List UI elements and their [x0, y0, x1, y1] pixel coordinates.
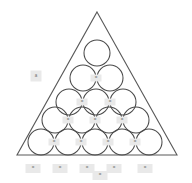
- baseline-label: =: [26, 164, 41, 173]
- tangency-marker: =: [103, 139, 114, 146]
- baseline-label: =: [138, 164, 153, 173]
- baseline-label: =: [107, 164, 122, 173]
- tangency-marker: =: [105, 99, 116, 106]
- baseline-label: =: [53, 164, 68, 173]
- tangency-marker: =: [90, 117, 101, 124]
- packed-circle: [84, 40, 110, 66]
- tangency-marker: =: [49, 139, 60, 146]
- apex-angle-badge: a: [31, 71, 42, 82]
- tangency-marker: =: [63, 117, 74, 124]
- diagram-canvas: ========== ====== a: [0, 0, 192, 183]
- tangency-marker: =: [77, 99, 88, 106]
- tangency-marker: =: [76, 139, 87, 146]
- tangency-marker: =: [130, 139, 141, 146]
- triangle-packing-figure: [0, 0, 192, 183]
- tangency-marker: =: [91, 75, 102, 82]
- baseline-label: =: [93, 171, 108, 180]
- tangency-marker: =: [117, 117, 128, 124]
